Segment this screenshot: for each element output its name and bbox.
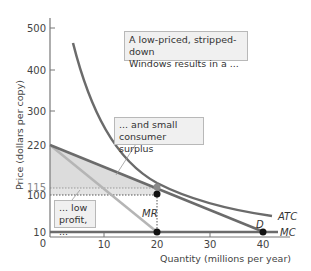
mc-label: MC bbox=[280, 227, 296, 238]
note-surplus-line2: consumer surplus bbox=[119, 131, 199, 155]
price-point bbox=[154, 191, 161, 198]
y-tick-220: 220 bbox=[27, 140, 46, 151]
y-tick-500: 500 bbox=[27, 23, 46, 34]
note-consumer-surplus: ... and small consumer surplus bbox=[114, 117, 204, 145]
mr-label: MR bbox=[142, 208, 158, 219]
atc-label: ATC bbox=[277, 211, 297, 222]
x-tick-10: 10 bbox=[98, 239, 111, 250]
note-profit: ... low profit, ... bbox=[54, 200, 96, 228]
note-profit-line1: ... low bbox=[59, 202, 91, 214]
x-tick-30: 30 bbox=[204, 239, 217, 250]
y-tick-100: 100 bbox=[27, 190, 46, 201]
note-top: A low-priced, stripped-down Windows resu… bbox=[124, 31, 248, 61]
atc-point bbox=[154, 184, 161, 191]
d-label: D bbox=[256, 219, 264, 230]
mr-mc-point bbox=[154, 229, 161, 236]
y-tick-400: 400 bbox=[27, 65, 46, 76]
note-surplus-line1: ... and small bbox=[119, 119, 199, 131]
x-axis-title: Quantity (millions per year) bbox=[160, 253, 291, 264]
y-tick-300: 300 bbox=[27, 106, 46, 117]
note-top-line1: A low-priced, stripped-down bbox=[129, 34, 243, 58]
y-tick-10: 10 bbox=[33, 227, 46, 238]
x-tick-40: 40 bbox=[257, 239, 270, 250]
y-axis-title: Price (dollars per copy) bbox=[14, 80, 25, 190]
y-tick-0: 0 bbox=[40, 238, 46, 249]
x-tick-20: 20 bbox=[151, 239, 164, 250]
y-ticks bbox=[50, 28, 55, 111]
note-profit-line2: profit, ... bbox=[59, 214, 91, 238]
note-top-line2: Windows results in a ... bbox=[129, 58, 243, 70]
